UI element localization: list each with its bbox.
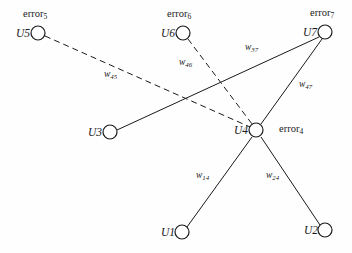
error-label-error6: error6 bbox=[167, 9, 191, 21]
error-label-error5-base: error bbox=[23, 8, 43, 19]
node-u3[interactable] bbox=[103, 125, 117, 139]
error-label-error7: error7 bbox=[310, 8, 334, 20]
error-label-error5-subscript: 5 bbox=[43, 12, 47, 21]
node-label-u5: U5 bbox=[16, 28, 30, 40]
weight-label-w37-subscript: 37 bbox=[251, 46, 258, 53]
node-u7[interactable] bbox=[318, 25, 332, 39]
weight-label-w24-subscript: 24 bbox=[272, 174, 279, 181]
error-label-error6-base: error bbox=[167, 8, 187, 19]
weight-label-w24: w24 bbox=[266, 171, 279, 182]
weight-label-w45: w45 bbox=[104, 70, 117, 81]
error-label-error4-base: error bbox=[279, 123, 299, 134]
error-label-error7-base: error bbox=[310, 7, 330, 18]
node-label-u2: U2 bbox=[304, 225, 318, 237]
edge-u4-u7 bbox=[261, 39, 322, 124]
error-label-error5: error5 bbox=[23, 9, 47, 21]
weight-label-w46-subscript: 46 bbox=[185, 61, 192, 68]
weight-label-w47-subscript: 47 bbox=[305, 83, 312, 90]
edge-u5-u4 bbox=[45, 36, 250, 127]
weight-label-w14: w14 bbox=[196, 171, 209, 182]
node-u1[interactable] bbox=[175, 225, 189, 239]
node-u6[interactable] bbox=[176, 26, 190, 40]
edge-u6-u4 bbox=[188, 39, 252, 124]
weight-label-w46: w46 bbox=[179, 58, 192, 69]
node-label-u1: U1 bbox=[161, 227, 175, 239]
node-label-u7: U7 bbox=[303, 27, 317, 39]
weight-label-w14-subscript: 14 bbox=[202, 174, 209, 181]
node-label-u6: U6 bbox=[161, 28, 175, 40]
node-u5[interactable] bbox=[31, 26, 45, 40]
node-label-u4: U4 bbox=[234, 125, 248, 137]
edge-u1-u4 bbox=[187, 137, 252, 227]
node-u4[interactable] bbox=[249, 123, 263, 137]
edge-u3-u7 bbox=[117, 37, 319, 130]
node-u2[interactable] bbox=[318, 223, 332, 237]
error-label-error4-subscript: 4 bbox=[299, 127, 303, 136]
node-label-u3: U3 bbox=[88, 127, 102, 139]
error-label-error7-subscript: 7 bbox=[330, 11, 334, 20]
weight-label-w37: w37 bbox=[245, 43, 258, 54]
diagram-canvas: U1U2U3U4U5U6U7error4error5error6error7w4… bbox=[0, 0, 352, 253]
weight-label-w47: w47 bbox=[299, 80, 312, 91]
error-label-error6-subscript: 6 bbox=[187, 12, 191, 21]
error-label-error4: error4 bbox=[279, 124, 303, 136]
weight-label-w45-subscript: 45 bbox=[110, 73, 117, 80]
